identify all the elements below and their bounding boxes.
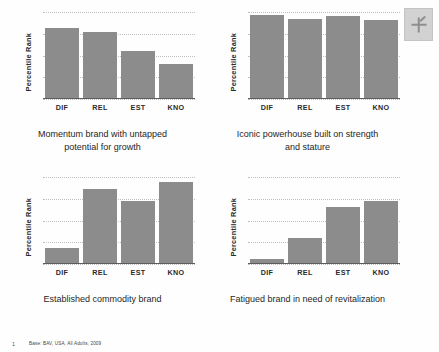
bar-slot: [83, 12, 116, 99]
panel-caption: Fatigued brand in need of revitalization: [211, 293, 404, 306]
x-axis-label-kno: KNO: [159, 268, 192, 277]
bar-kno: [159, 182, 192, 264]
plot-wrap: DIFRELESTKNO: [43, 173, 199, 281]
x-axis-line: [43, 263, 195, 264]
x-axis-labels: DIFRELESTKNO: [248, 266, 400, 279]
x-axis-label-kno: KNO: [364, 103, 397, 112]
plot-wrap: DIFRELESTKNO: [248, 173, 404, 281]
panel-caption: Established commodity brand: [6, 293, 199, 306]
bar-series: [248, 12, 400, 99]
bar-dif: [45, 248, 78, 264]
y-axis-title: Percentile Rank: [211, 8, 242, 116]
bar-series: [43, 177, 195, 264]
bar-kno: [159, 64, 192, 99]
bar-slot: [364, 12, 397, 99]
x-axis-label-kno: KNO: [364, 268, 397, 277]
y-axis-title: Percentile Rank: [211, 173, 242, 281]
footnote-marker: 1: [12, 341, 15, 347]
bar-dif: [250, 15, 283, 99]
bar-chart-fatigued: Percentile Rank DIFRELESTKNO: [211, 173, 404, 281]
bar-chart-iconic: Percentile Rank DIFRELESTKNO: [211, 8, 404, 116]
bar-chart-momentum: Percentile Rank DIFRELESTKNO: [6, 8, 199, 116]
plot-area: [43, 12, 195, 99]
bar-slot: [288, 12, 321, 99]
y-axis-title-label: Percentile Rank: [24, 198, 33, 256]
y-axis-title-label: Percentile Rank: [229, 33, 238, 91]
bar-slot: [250, 177, 283, 264]
footnote: 1 Base: BAV, USA, All Adults, 2009: [12, 341, 101, 347]
bar-rel: [288, 19, 321, 99]
gridline: [248, 99, 400, 100]
bar-slot: [326, 177, 359, 264]
x-axis-labels: DIFRELESTKNO: [43, 266, 195, 279]
x-axis-label-rel: REL: [83, 268, 116, 277]
bar-slot: [326, 12, 359, 99]
chart-panel-grid: Percentile Rank DIFRELESTKNO Momentum br…: [0, 6, 410, 336]
bar-slot: [121, 12, 154, 99]
bar-slot: [45, 12, 78, 99]
plus-glyph: [411, 17, 426, 32]
plot-area: [43, 177, 195, 264]
plot-wrap: DIFRELESTKNO: [43, 8, 199, 116]
bar-slot: [83, 177, 116, 264]
footnote-text: Base: BAV, USA, All Adults, 2009: [29, 341, 101, 346]
x-axis-label-rel: REL: [288, 268, 321, 277]
x-axis-label-est: EST: [326, 268, 359, 277]
chart-panel-commodity: Percentile Rank DIFRELESTKNO Established…: [0, 171, 205, 336]
x-axis-label-kno: KNO: [159, 103, 192, 112]
chart-panel-iconic: Percentile Rank DIFRELESTKNO Iconic powe…: [205, 6, 410, 171]
bar-slot: [288, 177, 321, 264]
gridline: [43, 99, 195, 100]
bar-slot: [159, 12, 192, 99]
x-axis-line: [248, 98, 400, 99]
panel-caption: Iconic powerhouse built on strength and …: [211, 128, 404, 153]
x-axis-label-rel: REL: [288, 103, 321, 112]
panel-caption: Momentum brand with untapped potential f…: [6, 128, 199, 153]
plot-area: [248, 177, 400, 264]
x-axis-line: [43, 98, 195, 99]
x-axis-label-dif: DIF: [45, 103, 78, 112]
x-axis-label-rel: REL: [83, 103, 116, 112]
bar-kno: [364, 201, 397, 264]
bar-est: [121, 201, 154, 264]
bar-rel: [83, 32, 116, 99]
bar-rel: [83, 189, 116, 264]
x-axis-label-est: EST: [326, 103, 359, 112]
gridline: [248, 264, 400, 265]
gridline: [43, 264, 195, 265]
bar-slot: [45, 177, 78, 264]
y-axis-title-label: Percentile Rank: [229, 198, 238, 256]
y-axis-title: Percentile Rank: [6, 173, 37, 281]
bar-series: [43, 12, 195, 99]
slide-canvas: Percentile Rank DIFRELESTKNO Momentum br…: [0, 0, 439, 352]
plot-area: [248, 12, 400, 99]
x-axis-labels: DIFRELESTKNO: [43, 101, 195, 114]
x-axis-line: [248, 263, 400, 264]
chart-panel-fatigued: Percentile Rank DIFRELESTKNO Fatigued br…: [205, 171, 410, 336]
bar-est: [121, 51, 154, 99]
bar-slot: [250, 12, 283, 99]
bar-est: [326, 16, 359, 99]
x-axis-label-dif: DIF: [45, 268, 78, 277]
bar-rel: [288, 238, 321, 264]
bar-series: [248, 177, 400, 264]
x-axis-label-dif: DIF: [250, 268, 283, 277]
y-axis-title-label: Percentile Rank: [24, 33, 33, 91]
bar-kno: [364, 20, 397, 99]
x-axis-labels: DIFRELESTKNO: [248, 101, 400, 114]
bar-slot: [121, 177, 154, 264]
x-axis-label-dif: DIF: [250, 103, 283, 112]
chart-panel-momentum: Percentile Rank DIFRELESTKNO Momentum br…: [0, 6, 205, 171]
bar-slot: [364, 177, 397, 264]
bar-chart-commodity: Percentile Rank DIFRELESTKNO: [6, 173, 199, 281]
bar-dif: [45, 28, 78, 99]
bar-est: [326, 207, 359, 264]
y-axis-title: Percentile Rank: [6, 8, 37, 116]
plot-wrap: DIFRELESTKNO: [248, 8, 404, 116]
x-axis-label-est: EST: [121, 103, 154, 112]
x-axis-label-est: EST: [121, 268, 154, 277]
bar-slot: [159, 177, 192, 264]
